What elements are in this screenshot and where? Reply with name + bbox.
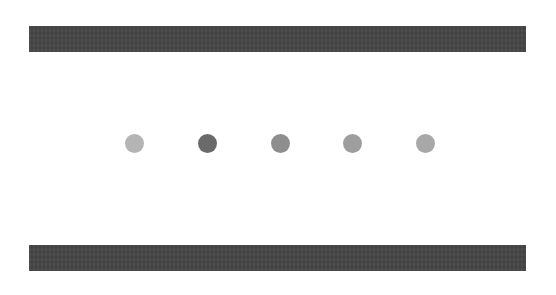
top-bar — [29, 26, 526, 52]
pagination-dot-4[interactable] — [343, 134, 362, 153]
pagination-dot-3[interactable] — [271, 134, 290, 153]
pagination-dot-5[interactable] — [416, 134, 435, 153]
pagination-dots — [0, 134, 556, 154]
pagination-dot-1[interactable] — [125, 134, 144, 153]
bottom-bar — [29, 245, 526, 271]
pagination-dot-2-active[interactable] — [198, 134, 217, 153]
